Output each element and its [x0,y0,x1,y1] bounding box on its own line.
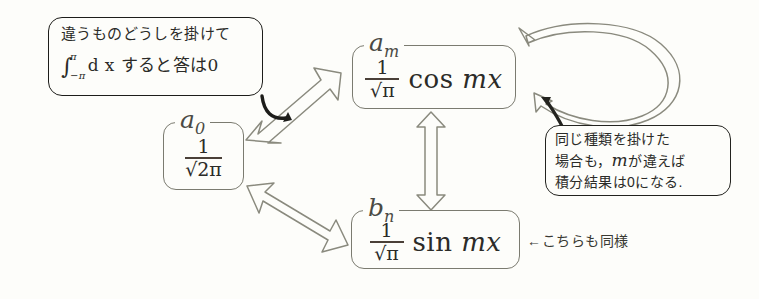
callout-top-left-line1: 違うものどうしを掛けて [61,24,252,45]
tail-right-callout [546,100,563,128]
fraction-numerator-bn: 1 [380,221,392,241]
tail-top-left-callout [262,96,286,118]
formula-body-bn: 1 √π sin mx [352,211,519,268]
fraction-denominator-a0: √2π [185,159,222,179]
formula-body-a0: 1 √2π [164,123,243,189]
formula-box-a0: a0 1 √2π [163,122,244,190]
formula-body-am: 1 √π cos mx [353,46,515,108]
integral-lower-limit: −π [70,71,86,82]
fraction-denominator-bn: √π [374,243,399,263]
fraction-numerator-a0: 1 [197,137,209,157]
formula-box-am: am 1 √π cos mx [352,45,516,109]
formula-box-bn: bn 1 √π sin mx [351,210,520,269]
integral-rest: d x すると答は0 [88,55,219,75]
callout-right: 同じ種類を掛けた 場合も，mが違えば 積分結果は0になる. [545,125,731,196]
fraction-bn: 1 √π [370,221,404,263]
callout-right-line1: 同じ種類を掛けた [555,130,722,149]
integral-limits: π−π [70,52,86,81]
trig-term-bn: sin mx [413,227,502,257]
figure-canvas: a0 1 √2π am 1 √π cos mx bn [0,0,759,299]
fraction-am: 1 √π [365,58,399,100]
annotation-bn-note: ←こちらも同様 [527,230,629,250]
callout-right-line3: 積分結果は0になる. [555,173,722,192]
callout-top-left-line2: ∫π−πd x すると答は0 [61,52,252,82]
fraction-numerator-am: 1 [376,58,388,78]
fraction-denominator-am: √π [370,80,395,100]
callout-right-line2b: が違えば [628,153,686,169]
callout-right-line2: 場合も，mが違えば [555,149,722,172]
trig-term-am: cos mx [408,64,502,94]
callout-top-left: 違うものどうしを掛けて ∫π−πd x すると答は0 [48,17,263,96]
callout-right-line2a: 場合も， [555,153,612,169]
callout-right-variable-m: m [612,150,629,170]
integral-upper-limit: π [70,52,86,63]
fraction-a0: 1 √2π [185,137,222,179]
